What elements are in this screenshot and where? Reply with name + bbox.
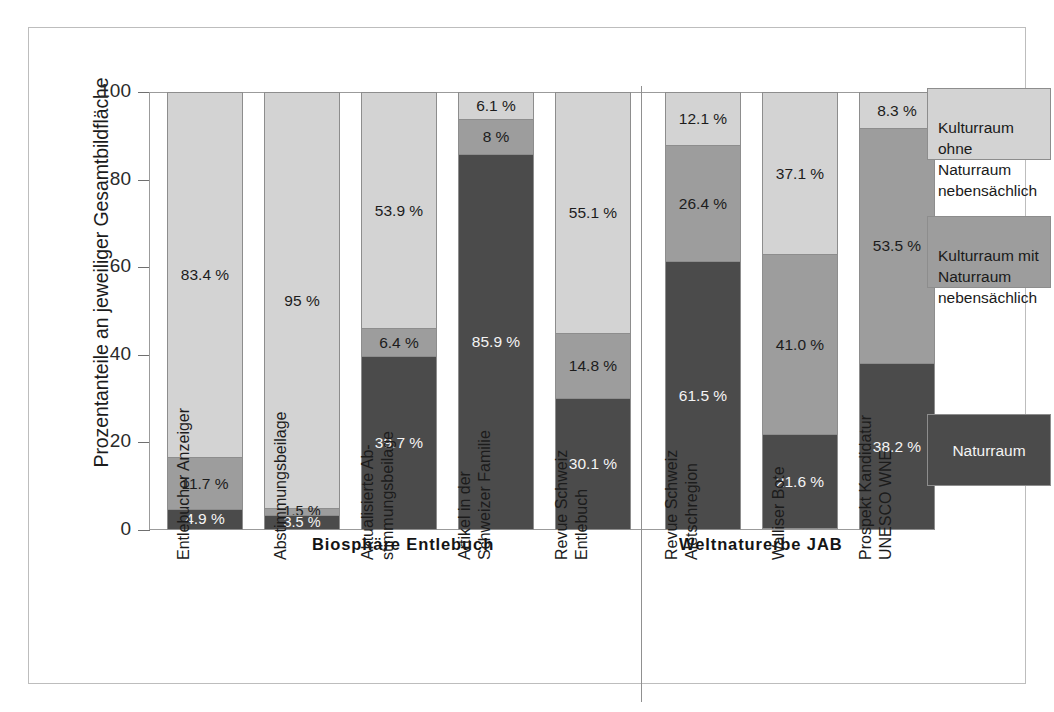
bar-segment: 12.1 % (665, 92, 741, 145)
y-axis-tick-label: 40 (110, 343, 131, 365)
bar-segment-value: 37.1 % (776, 166, 824, 182)
y-axis-tick-label: 100 (99, 80, 131, 102)
y-axis-tick: 60 (29, 267, 149, 268)
bar-segment-value: 12.1 % (679, 111, 727, 127)
bar-segment: 6.1 % (458, 92, 534, 119)
bar-segment: 6.4 % (361, 328, 437, 356)
x-axis-label: Revue SchweizEntlebuch (552, 400, 592, 560)
bar-segment-value: 85.9 % (472, 334, 520, 350)
x-axis-label: Walliser Bote (769, 400, 789, 560)
y-axis-tick: 20 (29, 442, 149, 443)
bar-segment-value: 41.0 % (776, 337, 824, 353)
x-axis-label: Artikel in derSchweizer Familie (455, 400, 495, 560)
y-axis-tick: 100 (29, 92, 149, 93)
x-axis-label-line: Revue Schweiz (662, 400, 682, 560)
group-caption-right: Weltnaturerbe JAB (679, 535, 843, 554)
x-axis-label: Aktualisierte Ab-stimmungsbeilage (358, 400, 398, 560)
x-axis-label-line: Aktualisierte Ab- (358, 400, 378, 560)
legend-label: Kulturraum mit Naturraum nebensächlich (938, 247, 1039, 306)
y-axis-tick-label: 20 (110, 430, 131, 452)
bar-segment-value: 95 % (284, 293, 319, 309)
figure-frame: Prozentanteile an jeweiliger Gesamtbildf… (28, 27, 1026, 684)
plot-area: 83.4 %11.7 %4.9 %95 %1.5 %3.5 %53.9 %6.4… (149, 92, 931, 530)
y-axis-tick: 0 (29, 530, 149, 531)
legend-item-kulturraum-mit-naturraum: Kulturraum mit Naturraum nebensächlich (927, 216, 1051, 288)
bar-segment-value: 53.5 % (873, 238, 921, 254)
bar-segment-value: 14.8 % (569, 358, 617, 374)
y-axis-tick-label: 60 (110, 255, 131, 277)
group-divider (641, 86, 642, 702)
legend-item-kulturraum-ohne-naturraum: Kulturraum ohne Naturraum nebensächlich (927, 88, 1051, 160)
x-axis-label-line: UNESCO WNE (876, 400, 896, 560)
bar-segment-value: 6.4 % (379, 335, 419, 351)
bar-segment: 8 % (458, 119, 534, 154)
bar-segment: 53.5 % (859, 128, 935, 362)
bar-segment-value: 55.1 % (569, 205, 617, 221)
x-axis-label-line: Artikel in der (455, 400, 475, 560)
x-axis-label-line: Abstimmungsbeilage (271, 400, 291, 560)
x-axis-label-line: Entlebuch (572, 400, 592, 560)
legend-label: Naturraum (952, 440, 1025, 461)
y-axis-tick-mark (138, 267, 149, 268)
x-axis-label-line: stimmungsbeilage (378, 400, 398, 560)
y-axis-tick-mark (138, 442, 149, 443)
x-axis-label-line: Walliser Bote (769, 400, 789, 560)
bar-segment: 26.4 % (665, 145, 741, 261)
x-axis-label-line: Revue Schweiz (552, 400, 572, 560)
bar-segment-value: 6.1 % (476, 98, 516, 114)
x-axis-label-line: Aletschregion (682, 400, 702, 560)
x-axis-label-line: Prospekt Kandidatur (856, 400, 876, 560)
y-axis-tick-mark (138, 92, 149, 93)
bar-segment: 37.1 % (762, 92, 838, 254)
bar-segment-value: 8 % (483, 129, 510, 145)
x-axis-label: Prospekt KandidaturUNESCO WNE (856, 400, 896, 560)
bar-segment: 55.1 % (555, 92, 631, 333)
legend-label: Kulturraum ohne Naturraum nebensächlich (938, 119, 1037, 199)
bar-segment-value: 53.9 % (375, 203, 423, 219)
bar-segment: 14.8 % (555, 333, 631, 398)
x-axis-label-line: Entlebucher Anzeiger (174, 400, 194, 560)
y-axis-tick-mark (138, 355, 149, 356)
y-axis-tick-mark (138, 530, 149, 531)
y-axis-tick-label: 0 (120, 518, 131, 540)
bar-segment-value: 8.3 % (877, 103, 917, 119)
bar-segment-value: 26.4 % (679, 196, 727, 212)
y-axis-tick-label: 80 (110, 168, 131, 190)
bar-segment-value: 83.4 % (181, 267, 229, 283)
x-axis-label: Revue SchweizAletschregion (662, 400, 702, 560)
chart-figure: Prozentanteile an jeweiliger Gesamtbildf… (0, 0, 1054, 712)
y-axis-tick-mark (138, 180, 149, 181)
y-axis-tick: 80 (29, 180, 149, 181)
bar-segment: 8.3 % (859, 92, 935, 128)
y-axis-tick: 40 (29, 355, 149, 356)
x-axis-label: Abstimmungsbeilage (271, 400, 291, 560)
x-axis-label-line: Schweizer Familie (475, 400, 495, 560)
x-axis-label: Entlebucher Anzeiger (174, 400, 194, 560)
legend-item-naturraum: Naturraum (927, 414, 1051, 486)
bar-segment: 53.9 % (361, 92, 437, 328)
